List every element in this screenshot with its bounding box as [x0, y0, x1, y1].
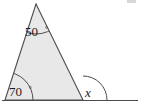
geometry-figure: 50 ° 70 ° x: [0, 0, 141, 110]
bottom-left-angle-degree-symbol: °: [29, 85, 32, 93]
exterior-angle-label: x: [84, 85, 91, 100]
bottom-left-angle-value: 70: [9, 84, 22, 99]
scan-smudge-artifact: [127, 0, 136, 3]
apex-angle-value: 50: [25, 24, 38, 39]
exterior-angle-value: x: [84, 85, 91, 100]
apex-angle-degree-symbol: °: [45, 25, 48, 33]
triangle-diagram-svg: 50 ° 70 ° x: [0, 0, 141, 110]
